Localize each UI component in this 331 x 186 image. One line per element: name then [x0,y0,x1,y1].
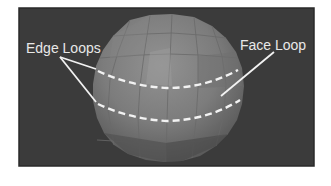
sphere-diagram: Edge Loops Face Loop [0,0,331,186]
edge-face-loop-figure: Edge Loops Face Loop [0,0,331,186]
shade-facet-right [198,52,242,88]
face-loop-label: Face Loop [240,37,306,53]
edge-loops-label: Edge Loops [26,40,101,56]
highlight-facet [146,48,172,86]
